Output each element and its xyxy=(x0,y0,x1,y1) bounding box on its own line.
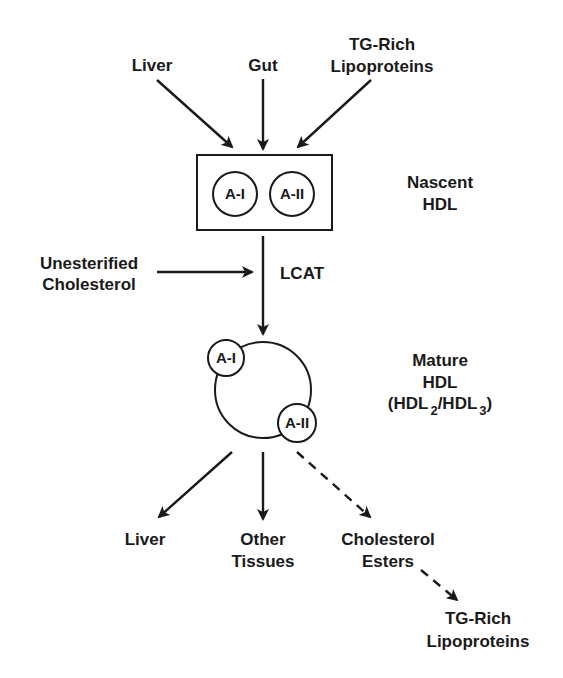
arrow-liver-to-nascent xyxy=(157,80,232,147)
mature-apo-a1-label: A-I xyxy=(216,349,236,366)
source-tg-rich-line2: Lipoproteins xyxy=(331,57,434,76)
source-liver-label: Liver xyxy=(132,56,173,75)
nascent-hdl-label-line2: HDL xyxy=(423,195,458,214)
hdl-metabolism-diagram: Liver Gut TG-Rich Lipoproteins A-I A-II … xyxy=(0,0,563,678)
dest-tg-rich-line1: TG-Rich xyxy=(445,609,511,628)
arrow-tg-to-nascent xyxy=(298,80,371,147)
nascent-hdl-label-line1: Nascent xyxy=(407,173,473,192)
source-gut-label: Gut xyxy=(248,56,278,75)
dest-tg-rich-line2: Lipoproteins xyxy=(427,632,530,651)
arrow-mature-to-esters-dashed xyxy=(297,452,370,517)
unesterified-label-line2: Cholesterol xyxy=(42,275,136,294)
mature-hdl-subclass-label: (HDL2/HDL3) xyxy=(388,394,492,418)
dest-esters-line1: Cholesterol xyxy=(341,530,435,549)
mature-hdl-label-line2: HDL xyxy=(423,373,458,392)
source-tg-rich-line1: TG-Rich xyxy=(349,35,415,54)
nascent-apo-a1-label: A-I xyxy=(225,185,245,202)
unesterified-label-line1: Unesterified xyxy=(40,254,138,273)
dest-tissues-line2: Tissues xyxy=(231,552,294,571)
arrow-mature-to-liver xyxy=(159,452,232,517)
dest-esters-line2: Esters xyxy=(362,552,414,571)
lcat-label: LCAT xyxy=(280,264,325,283)
dest-tissues-line1: Other xyxy=(240,530,286,549)
dest-liver-label: Liver xyxy=(125,530,166,549)
mature-hdl-label-line1: Mature xyxy=(412,351,468,370)
arrow-esters-to-tg-dashed xyxy=(421,570,457,600)
mature-apo-a2-label: A-II xyxy=(285,414,309,431)
nascent-apo-a2-label: A-II xyxy=(280,185,304,202)
